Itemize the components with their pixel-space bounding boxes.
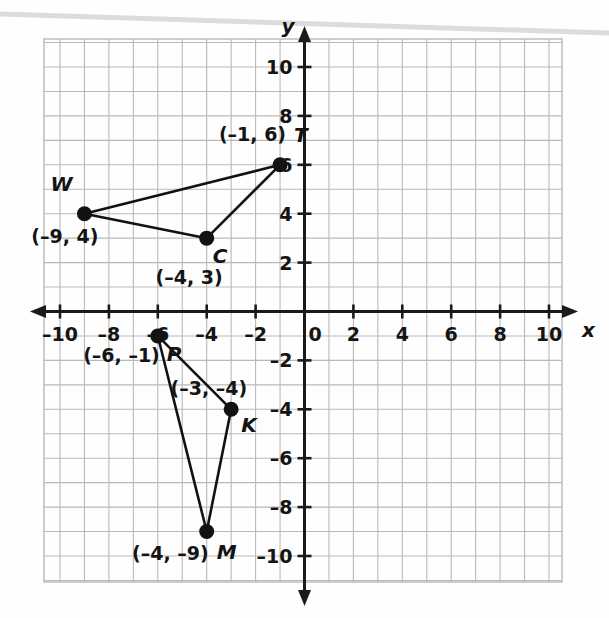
point-label-T: T [294, 125, 308, 145]
y-tick-label--8: –8 [270, 498, 293, 517]
x-tick-label-6: 6 [445, 325, 458, 344]
x-tick-label-4: 4 [396, 325, 409, 344]
point-coord-P: (–6, –1) [83, 346, 160, 365]
x-axis-label: x [582, 320, 595, 340]
y-tick-label--6: –6 [270, 449, 293, 468]
y-tick-label--4: –4 [270, 400, 293, 419]
point-label-P: P [167, 344, 182, 364]
point-label-K: K [241, 415, 257, 435]
y-tick-label-10: 10 [266, 58, 292, 77]
y-tick-label--2: –2 [270, 351, 293, 370]
point-coord-M: (–4, –9) [132, 544, 209, 563]
x-tick-label--6: –6 [146, 325, 169, 344]
x-tick-label-2: 2 [347, 325, 360, 344]
data-point-M[interactable] [199, 524, 214, 539]
y-tick-label-2: 2 [279, 254, 292, 273]
y-tick-label-6: 6 [279, 156, 292, 175]
coordinate-plane-figure: –10–8–6–4–20246810108642–2–4–6–8–10xyT(–… [0, 0, 609, 618]
coordinate-plane-svg [0, 0, 609, 618]
point-label-W: W [50, 174, 72, 194]
data-point-W[interactable] [77, 206, 92, 221]
x-tick-label-10: 10 [536, 325, 562, 344]
point-coord-C: (–4, 3) [156, 268, 223, 287]
point-coord-K: (–3, –4) [171, 379, 248, 398]
x-tick-label-0: 0 [309, 325, 322, 344]
x-tick-label--10: –10 [42, 325, 78, 344]
y-axis-arrow-up [298, 26, 311, 42]
x-tick-label--2: –2 [244, 325, 267, 344]
x-tick-label--4: –4 [195, 325, 218, 344]
point-coord-W: (–9, 4) [31, 227, 98, 246]
x-axis-arrow-left [30, 305, 46, 318]
y-axis-arrow-down [298, 590, 311, 606]
x-tick-label-8: 8 [493, 325, 506, 344]
y-tick-label--10: –10 [257, 547, 293, 566]
x-tick-label--8: –8 [98, 325, 121, 344]
data-point-C[interactable] [199, 231, 214, 246]
point-coord-T: (–1, 6) [219, 125, 286, 144]
y-tick-label-4: 4 [279, 205, 292, 224]
point-label-C: C [213, 246, 228, 266]
x-axis-arrow-right [562, 305, 578, 318]
axis-lines [30, 26, 578, 606]
data-point-K[interactable] [224, 402, 239, 417]
point-label-M: M [217, 542, 237, 562]
y-axis-label: y [281, 16, 294, 36]
